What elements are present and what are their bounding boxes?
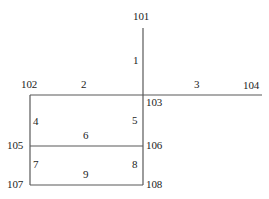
node-label-102: 102	[21, 79, 37, 90]
segment-label-5: 5	[132, 115, 138, 126]
segment-label-9: 9	[83, 169, 89, 180]
node-label-104: 104	[243, 80, 259, 91]
segment-label-3: 3	[194, 79, 200, 90]
node-label-107: 107	[7, 179, 23, 190]
diagram-canvas: 123456789101102103104105106107108	[0, 0, 269, 199]
segment-label-1: 1	[133, 55, 139, 66]
node-label-108: 108	[146, 179, 162, 190]
segment-label-6: 6	[83, 130, 89, 141]
node-label-103: 103	[146, 97, 162, 108]
node-label-101: 101	[133, 11, 149, 22]
segment-label-2: 2	[81, 79, 87, 90]
segment-label-4: 4	[33, 116, 39, 127]
node-label-105: 105	[7, 140, 23, 151]
node-label-106: 106	[146, 140, 162, 151]
segment-label-8: 8	[132, 159, 138, 170]
segment-label-7: 7	[33, 159, 39, 170]
